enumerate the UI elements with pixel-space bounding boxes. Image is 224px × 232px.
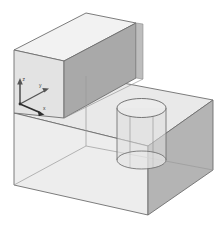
isometric-model-canvas[interactable]: z y x [0, 0, 224, 232]
cylinder-top-ellipse [117, 99, 166, 118]
cylinder[interactable] [117, 99, 166, 170]
axis-origin-marker [19, 103, 22, 106]
upper-right-face [136, 23, 143, 79]
cylinder-bottom-ellipse [117, 151, 166, 169]
model-viewport[interactable]: z y x [0, 0, 224, 232]
